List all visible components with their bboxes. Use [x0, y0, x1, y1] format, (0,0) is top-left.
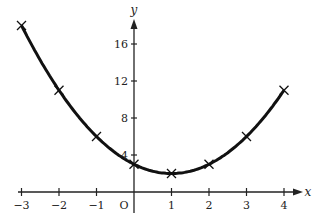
data-markers [17, 21, 289, 178]
y-tick-label: 4 [121, 149, 128, 162]
axis-labels: −3−2−11234481216Oxy [13, 3, 311, 212]
curve [22, 26, 285, 174]
y-axis-label: y [130, 3, 138, 17]
parabola-chart: −3−2−11234481216Oxy [0, 0, 317, 223]
x-tick-label: 2 [206, 199, 213, 212]
x-axis-arrow-icon [293, 189, 303, 196]
y-tick-label: 8 [121, 112, 128, 125]
x-marker-icon [55, 86, 64, 95]
x-tick-label: 4 [281, 199, 288, 212]
x-tick-label: 3 [243, 199, 250, 212]
x-tick-label: −1 [88, 199, 104, 212]
x-tick-label: 1 [168, 199, 175, 212]
y-tick-label: 12 [114, 75, 128, 88]
x-marker-icon [92, 132, 101, 141]
y-tick-label: 16 [114, 38, 128, 51]
x-marker-icon [242, 132, 251, 141]
x-marker-icon [280, 86, 289, 95]
x-axis-label: x [305, 185, 312, 199]
axes [18, 19, 303, 213]
parabola-curve [22, 26, 285, 174]
y-axis-arrow-icon [131, 19, 138, 29]
origin-label: O [119, 199, 128, 212]
x-tick-label: −3 [13, 199, 29, 212]
x-tick-label: −2 [51, 199, 67, 212]
